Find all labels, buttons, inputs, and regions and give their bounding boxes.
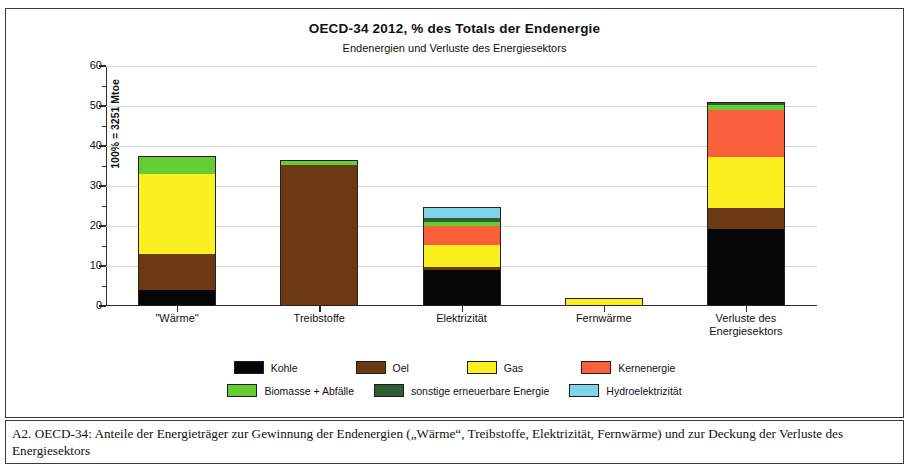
- bar-segment: [138, 174, 216, 254]
- y-tick-minor: [102, 246, 106, 247]
- legend-label: Gas: [504, 362, 523, 374]
- bar-segment: [707, 229, 785, 306]
- gridline: [106, 66, 817, 67]
- x-tick-label-line: Fernwärme: [524, 312, 684, 325]
- bar-segment: [707, 208, 785, 229]
- bar-segment: [280, 165, 358, 306]
- bar-1: [138, 156, 216, 306]
- y-tick-minor: [102, 126, 106, 127]
- bar-segment: [423, 207, 501, 218]
- legend-label: Kernenergie: [618, 362, 675, 374]
- legend-swatch-icon: [374, 384, 404, 397]
- x-tick-label-line: Treibstoffe: [239, 312, 399, 325]
- y-axis-title: 100% = 3251 Mtoe: [109, 49, 121, 199]
- legend-item[interactable]: Kernenergie: [581, 361, 675, 374]
- chart-title: OECD-34 2012, % des Totals der Endenergi…: [6, 21, 903, 36]
- legend-swatch-icon: [227, 384, 257, 397]
- legend-row-secondary: Biomasse + Abfällesonstige erneuerbare E…: [6, 384, 903, 397]
- legend-row-primary: KohleOelGasKernenergie: [6, 361, 903, 374]
- legend-item[interactable]: Oel: [356, 361, 409, 374]
- legend-label: Biomasse + Abfälle: [264, 385, 354, 397]
- y-tick-label: 10: [62, 259, 102, 271]
- legend-swatch-icon: [581, 361, 611, 374]
- x-tick-label: Treibstoffe: [239, 312, 399, 325]
- legend-label: sonstige erneuerbare Energie: [411, 385, 549, 397]
- legend-label: Kohle: [271, 362, 298, 374]
- x-tick-label-line: "Wärme": [97, 312, 257, 325]
- legend-label: Hydroelektrizität: [606, 385, 681, 397]
- legend: KohleOelGasKernenergie Biomasse + Abfäll…: [6, 361, 903, 397]
- y-tick-label: 30: [62, 179, 102, 191]
- legend-item[interactable]: Biomasse + Abfälle: [227, 384, 354, 397]
- legend-swatch-icon: [569, 384, 599, 397]
- y-tick-minor: [102, 166, 106, 167]
- y-tick-minor: [102, 206, 106, 207]
- bar-segment: [707, 157, 785, 208]
- legend-item[interactable]: Gas: [467, 361, 523, 374]
- bar-2: [280, 160, 358, 306]
- legend-swatch-icon: [234, 361, 264, 374]
- legend-item[interactable]: sonstige erneuerbare Energie: [374, 384, 549, 397]
- legend-item[interactable]: Hydroelektrizität: [569, 384, 681, 397]
- y-tick-label: 20: [62, 219, 102, 231]
- bar-segment: [138, 290, 216, 306]
- y-tick-label: 40: [62, 139, 102, 151]
- bar-segment: [138, 156, 216, 174]
- legend-swatch-icon: [467, 361, 497, 374]
- y-tick-label: 0: [62, 299, 102, 311]
- y-tick-minor: [102, 86, 106, 87]
- bar-segment: [423, 245, 501, 267]
- x-tick-label: Elektrizität: [382, 312, 542, 325]
- bar-3: [423, 207, 501, 306]
- bar-5: [707, 102, 785, 306]
- y-tick-label: 60: [62, 59, 102, 71]
- x-tick-label: Verluste desEnergiesektors: [666, 312, 826, 338]
- figure-panel: OECD-34 2012, % des Totals der Endenergi…: [5, 8, 904, 418]
- legend-label: Oel: [393, 362, 409, 374]
- figure-caption: A2. OECD-34: Anteile der Energieträger z…: [5, 420, 904, 464]
- bar-4: [565, 298, 643, 306]
- bar-segment: [138, 254, 216, 290]
- bar-segment: [423, 226, 501, 245]
- x-tick-label-line: Verluste des: [666, 312, 826, 325]
- x-tick-label-line: Energiesektors: [666, 325, 826, 338]
- legend-item[interactable]: Kohle: [234, 361, 298, 374]
- plot-area: 100% = 3251 Mtoe 0102030405060 "Wärme"Tr…: [106, 66, 817, 306]
- bar-segment: [707, 110, 785, 157]
- y-tick-label: 50: [62, 99, 102, 111]
- x-tick-label: Fernwärme: [524, 312, 684, 325]
- x-tick-label: "Wärme": [97, 312, 257, 325]
- x-tick-label-line: Elektrizität: [382, 312, 542, 325]
- chart-subtitle: Endenergien und Verluste des Energiesekt…: [6, 42, 903, 54]
- legend-swatch-icon: [356, 361, 386, 374]
- y-tick-minor: [102, 286, 106, 287]
- bar-segment: [423, 270, 501, 306]
